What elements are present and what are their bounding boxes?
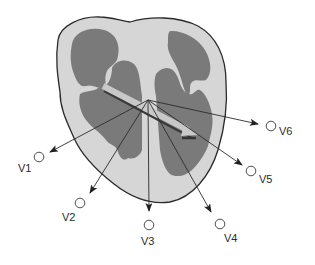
lead-label-v5: V5 — [259, 173, 272, 185]
lead-label-v2: V2 — [62, 211, 75, 223]
electrode-v3-icon — [144, 220, 154, 230]
electrode-v6-icon — [266, 121, 276, 131]
lead-label-v6: V6 — [279, 125, 292, 137]
electrode-v1-icon — [34, 152, 44, 162]
lead-label-v3: V3 — [141, 235, 154, 247]
electrode-v2-icon — [75, 198, 85, 208]
lead-label-v4: V4 — [224, 232, 237, 244]
heart-lead-diagram: V1 V2 V3 V4 V5 V6 — [0, 0, 315, 265]
lead-label-v1: V1 — [18, 162, 31, 174]
electrode-v5-icon — [246, 166, 256, 176]
electrode-v4-icon — [215, 219, 225, 229]
